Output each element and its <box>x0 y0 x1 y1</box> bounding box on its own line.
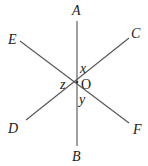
point-o-dot <box>76 81 79 84</box>
diagram-canvas: A B C D E F O x y z <box>0 0 148 166</box>
label-o: O <box>81 77 91 92</box>
angle-y: y <box>77 92 86 107</box>
label-e: E <box>7 32 17 47</box>
label-f: F <box>132 122 142 137</box>
label-d: D <box>7 121 18 136</box>
label-c: C <box>131 26 141 41</box>
angle-z: z <box>59 77 66 92</box>
angle-x: x <box>79 61 87 76</box>
label-a: A <box>71 3 81 18</box>
label-b: B <box>72 149 81 164</box>
